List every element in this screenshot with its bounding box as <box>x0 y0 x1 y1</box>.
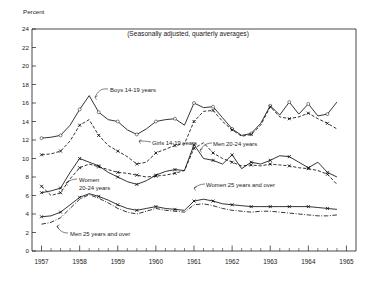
y-tick-label: 18 <box>22 81 29 88</box>
leader-line <box>57 226 68 233</box>
series-label-men-25-over: Men 25 years and over <box>70 231 130 237</box>
series-line-men-25-years-and-over <box>42 195 337 225</box>
chart-title: (Seasonally adjusted, quarterly averages… <box>127 30 249 38</box>
series-label-men-20-24: Men 20-24 years <box>213 141 257 147</box>
y-tick-label: 10 <box>22 155 29 162</box>
leader-arrowhead <box>194 187 197 191</box>
x-axis-tick-labels: 195719581959196019611962196319641965 <box>34 258 354 265</box>
series-label-women-25-over: Women 25 years and over <box>206 182 275 188</box>
x-tick-label: 1960 <box>149 258 164 265</box>
y-tick-label: 12 <box>22 136 29 143</box>
y-tick-label: 16 <box>22 99 29 106</box>
y-axis-tick-labels: 024681012141618202224 <box>22 25 29 254</box>
leader-arrowhead <box>57 225 60 229</box>
x-axis-ticks <box>42 246 347 252</box>
x-tick-label: 1959 <box>111 258 126 265</box>
series-line-girls-14-19-years <box>40 105 337 165</box>
y-tick-label: 22 <box>22 44 29 51</box>
y-tick-label: 14 <box>22 118 29 125</box>
y-tick-label: 24 <box>22 25 29 32</box>
x-tick-label: 1964 <box>301 258 316 265</box>
x-tick-label: 1961 <box>187 258 202 265</box>
unemployment-rate-line-chart: 024681012141618202224 195719581959196019… <box>0 0 374 283</box>
y-tick-label: 20 <box>22 62 29 69</box>
y-tick-label: 8 <box>26 173 30 180</box>
y-axis-ticks <box>32 29 36 251</box>
leader-arrowhead <box>139 140 142 144</box>
x-tick-label: 1958 <box>73 258 88 265</box>
x-tick-label: 1965 <box>339 258 354 265</box>
y-tick-label: 2 <box>26 229 30 236</box>
series-label-boys-14-19: Boys 14-19 years <box>110 87 156 93</box>
x-tick-label: 1962 <box>225 258 240 265</box>
series-line-boys-14-19-years <box>40 96 337 140</box>
x-tick-label: 1957 <box>34 258 49 265</box>
leader-line <box>95 89 108 97</box>
y-tick-label: 0 <box>26 247 30 254</box>
y-tick-label: 4 <box>26 210 30 217</box>
y-axis-title: Percent <box>23 8 45 15</box>
series-label-women-20-24-line1: Women <box>79 177 99 183</box>
y-tick-label: 6 <box>26 192 30 199</box>
chart-container: 024681012141618202224 195719581959196019… <box>0 0 374 283</box>
series-label-women-20-24-line2: 20-24 years <box>79 185 110 191</box>
series-line-women-25-years-and-over <box>40 194 337 219</box>
leader-line <box>139 141 151 142</box>
series-group <box>40 96 337 225</box>
series-label-girls-14-19: Girls 14-19 years <box>152 140 197 146</box>
x-tick-label: 1963 <box>263 258 278 265</box>
